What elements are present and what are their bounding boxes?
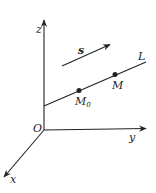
point-m: [113, 72, 118, 77]
direction-vector-label: s: [78, 44, 84, 57]
line-l: [44, 62, 146, 106]
origin-label: O: [33, 122, 42, 135]
line-l-label: L: [137, 50, 145, 63]
point-m0: [77, 88, 82, 93]
x-axis: [4, 130, 44, 177]
x-axis-label: x: [10, 173, 17, 186]
z-axis-label: z: [35, 23, 42, 36]
line-in-space-diagram: z y x O L M0 M s: [0, 0, 156, 193]
direction-vector-s: [62, 45, 110, 67]
y-axis-label: y: [128, 131, 136, 144]
point-m0-label: M0: [74, 95, 91, 109]
y-axis: [44, 129, 146, 131]
point-m-label: M: [111, 79, 124, 92]
